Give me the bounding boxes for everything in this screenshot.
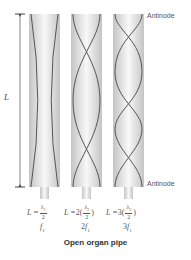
formula-coefficient: 3(: [118, 208, 125, 217]
denominator: 2: [42, 214, 45, 220]
frequency-subscript: 1: [42, 228, 45, 233]
fraction: λ2 2: [83, 204, 90, 220]
denominator: 2: [85, 214, 88, 220]
fraction: λ3 2: [125, 204, 132, 220]
pipe-2: [71, 14, 102, 199]
formula-prefix: L =: [64, 208, 76, 217]
frequency-subscript: 1: [87, 228, 90, 233]
frequency-pipe-2: 2f1: [81, 222, 90, 233]
length-dimension-arrow: [15, 14, 25, 187]
frequency-pipe-3: 3f1: [123, 222, 132, 233]
formula-pipe-3: L = 3( λ3 2 ): [106, 204, 136, 220]
lambda-subscript: 3: [129, 207, 131, 212]
antinode-bottom-label: Antinode: [147, 180, 175, 187]
pipe-3: [113, 14, 144, 199]
lambda-subscript: 1: [44, 207, 46, 212]
antinode-top-label: Antinode: [147, 12, 175, 19]
pipe-1: [29, 14, 60, 199]
fraction: λ1 2: [40, 204, 47, 220]
formula-pipe-2: L = 2( λ2 2 ): [64, 204, 94, 220]
length-label: L: [4, 92, 9, 102]
formula-prefix: L =: [27, 208, 39, 217]
frequency-subscript: 1: [129, 228, 132, 233]
frequency-pipe-1: f1: [40, 222, 45, 233]
denominator: 2: [127, 214, 130, 220]
figure-caption: Open organ pipe: [0, 238, 191, 247]
formula-prefix: L =: [106, 208, 118, 217]
lambda-subscript: 2: [87, 207, 89, 212]
formula-coefficient: 2(: [76, 208, 83, 217]
formula-pipe-1: L = λ1 2: [27, 204, 48, 220]
organ-pipe-diagram: [0, 0, 191, 260]
